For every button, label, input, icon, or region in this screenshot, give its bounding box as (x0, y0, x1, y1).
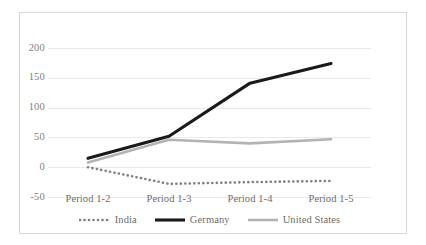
legend-label-germany: Germany (190, 214, 230, 226)
x-axis-tick-period-1-2: Period 1-2 (65, 193, 110, 205)
series-line-united-states (88, 139, 331, 162)
x-axis-tick-period-1-4: Period 1-4 (227, 193, 272, 205)
legend-label-united-states: United States (283, 214, 341, 226)
legend-label-india: India (115, 214, 137, 226)
legend-swatch-india-icon (79, 215, 111, 225)
y-axis-tick: 200 (29, 43, 45, 53)
series-line-germany (88, 64, 331, 159)
y-axis-tick-labels: 200 150 100 50 0 -50 (14, 40, 45, 191)
y-axis-tick: 0 (40, 162, 45, 172)
y-axis-tick: 150 (29, 72, 45, 82)
legend-item-united-states[interactable]: United States (247, 214, 341, 226)
x-axis-tick-period-1-3: Period 1-3 (146, 193, 191, 205)
legend-swatch-united-states-icon (247, 215, 279, 225)
chart-legend: India Germany United States (48, 212, 371, 228)
legend-item-india[interactable]: India (79, 214, 137, 226)
x-axis-tick-period-1-5: Period 1-5 (308, 193, 353, 205)
line-chart-figure: 200 150 100 50 0 -50 Period 1-2 Period 1… (0, 0, 426, 245)
y-axis-tick: 100 (29, 102, 45, 112)
y-axis-tick: -50 (30, 192, 45, 202)
legend-item-germany[interactable]: Germany (154, 214, 230, 226)
y-axis-tick: 50 (34, 132, 45, 142)
series-line-india (88, 167, 331, 184)
series-layer (48, 40, 371, 198)
plot-area (48, 40, 371, 191)
x-axis-tick-labels: Period 1-2 Period 1-3 Period 1-4 Period … (48, 193, 371, 209)
legend-swatch-germany-icon (154, 215, 186, 225)
